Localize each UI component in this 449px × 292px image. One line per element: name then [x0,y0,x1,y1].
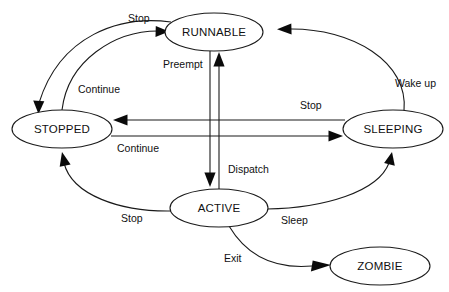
edge-sleeping-to-stopped: Stop [113,99,345,126]
state-label-stopped: STOPPED [34,123,90,135]
state-node-sleeping[interactable]: SLEEPING [343,110,443,148]
arrowhead-active-to-runnable [213,52,224,67]
edge-label-active-to-sleeping: Sleep [281,214,308,226]
edge-label-sleeping-to-stopped: Stop [300,99,322,111]
edge-label-runnable-to-stopped: Stop [128,12,150,24]
edge-stopped-to-runnable: Continue [62,26,169,110]
edge-active-to-stopped: Stop [60,152,172,224]
edge-label-runnable-to-active: Dispatch [228,163,269,175]
state-node-runnable[interactable]: RUNNABLE [165,13,263,51]
state-node-stopped[interactable]: STOPPED [12,110,112,148]
state-label-active: ACTIVE [198,202,241,214]
edge-label-stopped-to-sleeping: Continue [117,142,159,154]
state-node-zombie[interactable]: ZOMBIE [330,247,430,285]
state-node-active[interactable]: ACTIVE [170,189,268,227]
arrowhead-runnable-to-active [204,173,215,188]
edge-label-sleeping-to-runnable: Wake up [395,77,436,89]
state-label-sleeping: SLEEPING [363,123,422,135]
edge-stopped-to-runnable-path [62,31,158,110]
edge-stopped-to-sleeping: Continue [111,130,343,153]
edge-label-active-to-runnable: Preempt [163,58,203,70]
arrowhead-sleeping-to-stopped [113,114,128,125]
edge-runnable-to-active: Dispatch [204,51,269,187]
state-label-runnable: RUNNABLE [182,26,246,38]
edge-active-to-zombie: Exit [224,226,331,272]
arrowhead-stopped-to-sleeping [329,130,344,141]
edge-active-to-sleeping: Sleep [267,152,395,226]
arrowhead-active-to-sleeping [384,152,395,166]
state-diagram-canvas: Stop Continue Preempt Dispatch Stop [0,0,449,292]
edge-active-to-runnable: Preempt [163,52,225,190]
edge-label-active-to-stopped: Stop [121,212,143,224]
state-label-zombie: ZOMBIE [357,260,402,272]
edge-active-to-stopped-path [64,163,172,211]
edge-runnable-to-stopped: Stop [33,12,171,114]
state-diagram-svg: Stop Continue Preempt Dispatch Stop [0,0,449,292]
arrowhead-active-to-zombie [311,261,331,272]
edge-active-to-sleeping-path [267,163,389,209]
edge-label-active-to-zombie: Exit [224,252,242,264]
edge-label-stopped-to-runnable: Continue [78,83,120,95]
arrowhead-active-to-stopped [60,152,71,167]
arrowhead-sleeping-to-runnable [277,23,292,34]
